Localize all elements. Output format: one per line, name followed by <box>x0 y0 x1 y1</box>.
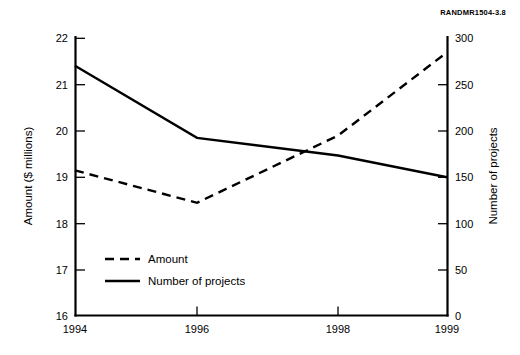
right-tick-label: 50 <box>455 264 467 276</box>
left-tick-label: 17 <box>56 264 68 276</box>
left-tick-label: 18 <box>56 218 68 230</box>
left-axis-tick-labels: 22 21 20 19 18 17 16 <box>56 32 68 322</box>
x-tick-label: 1994 <box>63 323 87 335</box>
series-line-amount <box>75 52 447 203</box>
left-tick-label: 19 <box>56 171 68 183</box>
chart-figure: RANDMR1504-3.8 22 21 20 19 18 17 16 <box>0 0 520 355</box>
line-chart: 22 21 20 19 18 17 16 300 250 200 150 100… <box>0 0 520 355</box>
left-axis-title: Amount ($ millions) <box>22 127 34 226</box>
legend-label-amount: Amount <box>148 253 188 265</box>
x-tick-label: 1998 <box>326 323 350 335</box>
x-axis-ticks <box>197 307 338 316</box>
right-tick-label: 250 <box>455 79 473 91</box>
left-axis-ticks <box>76 38 85 270</box>
right-tick-label: 200 <box>455 125 473 137</box>
chart-legend: Amount Number of projects <box>105 253 245 287</box>
right-tick-label: 300 <box>455 32 473 44</box>
x-tick-label: 1999 <box>435 323 459 335</box>
right-axis-title: Number of projects <box>487 127 499 224</box>
left-tick-label: 16 <box>56 310 68 322</box>
right-axis-tick-labels: 300 250 200 150 100 50 0 <box>455 32 473 322</box>
source-tag: RANDMR1504-3.8 <box>440 8 506 17</box>
right-tick-label: 100 <box>455 218 473 230</box>
right-tick-label: 150 <box>455 171 473 183</box>
left-tick-label: 20 <box>56 125 68 137</box>
x-tick-label: 1996 <box>185 323 209 335</box>
right-tick-label: 0 <box>455 310 461 322</box>
x-axis-tick-labels: 1994 1996 1998 1999 <box>63 323 459 335</box>
legend-label-number-of-projects: Number of projects <box>148 275 245 287</box>
left-tick-label: 21 <box>56 79 68 91</box>
axis-frame <box>76 37 448 316</box>
left-tick-label: 22 <box>56 32 68 44</box>
series-line-number-of-projects <box>75 66 447 178</box>
